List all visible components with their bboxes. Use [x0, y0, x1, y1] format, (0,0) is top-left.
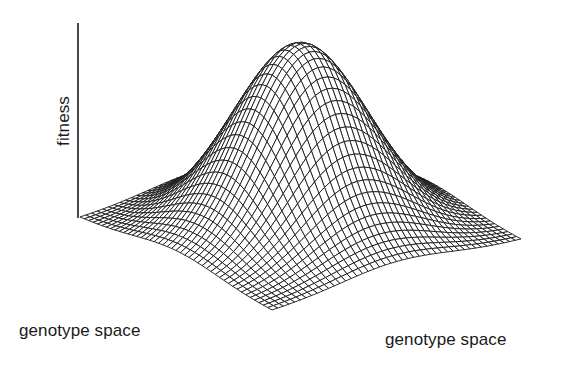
fitness-landscape-figure [0, 0, 567, 371]
gaussian-wireframe-surface [80, 42, 521, 310]
genotype-space-axis-label-left: genotype space [19, 321, 140, 341]
genotype-space-axis-label-right: genotype space [385, 330, 506, 350]
fitness-axis-label: fitness [54, 89, 74, 153]
